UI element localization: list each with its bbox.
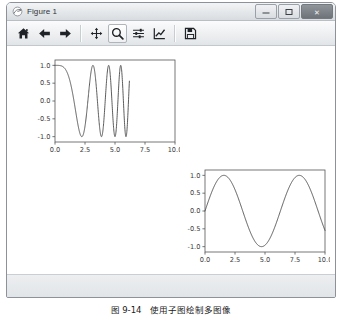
- sine-plot-svg: 0.02.55.07.510.01.00.50.0-0.5-1.0: [175, 164, 330, 275]
- minimize-icon: [263, 13, 270, 14]
- svg-text:0.0: 0.0: [40, 97, 51, 105]
- svg-text:-0.5: -0.5: [38, 115, 51, 123]
- window-controls: ✕: [255, 4, 333, 19]
- figure-canvas[interactable]: 0.02.55.07.510.01.00.50.0-0.5-1.0 0.02.5…: [7, 46, 335, 275]
- svg-text:-1.0: -1.0: [38, 133, 51, 141]
- svg-text:1.0: 1.0: [40, 62, 51, 70]
- toolbar-separator-1: [80, 25, 82, 42]
- svg-text:7.5: 7.5: [290, 256, 301, 264]
- back-arrow-icon: [38, 27, 51, 40]
- edit-axis-button[interactable]: [150, 24, 169, 43]
- maximize-button[interactable]: [278, 4, 300, 19]
- window-title: Figure 1: [27, 7, 57, 16]
- toolbar-separator-2: [174, 25, 176, 42]
- pan-move-icon: [90, 27, 103, 40]
- maximize-icon: [286, 9, 293, 15]
- matplotlib-figure-icon: [12, 6, 23, 17]
- title-bar: Figure 1 ✕: [7, 3, 335, 21]
- forward-arrow-icon: [59, 27, 72, 40]
- svg-text:-1.0: -1.0: [188, 243, 201, 251]
- back-button[interactable]: [35, 24, 54, 43]
- configure-subplots-button[interactable]: [129, 24, 148, 43]
- figure-caption: 图 9-14 使用子图绘制多图像: [0, 303, 342, 315]
- chirp-plot: 0.02.55.07.510.01.00.50.0-0.5-1.0: [25, 54, 180, 166]
- edit-axis-curve-icon: [153, 27, 166, 40]
- svg-text:5.0: 5.0: [110, 146, 121, 154]
- home-icon: [17, 27, 30, 40]
- minimize-button[interactable]: [255, 4, 277, 19]
- svg-text:0.0: 0.0: [200, 256, 211, 264]
- svg-text:2.5: 2.5: [230, 256, 241, 264]
- svg-text:0.5: 0.5: [40, 79, 51, 87]
- sine-plot: 0.02.55.07.510.01.00.50.0-0.5-1.0: [175, 164, 330, 275]
- chirp-plot-svg: 0.02.55.07.510.01.00.50.0-0.5-1.0: [25, 54, 180, 166]
- save-button[interactable]: [181, 24, 200, 43]
- zoom-magnifier-icon: [111, 27, 124, 40]
- zoom-button[interactable]: [108, 24, 127, 43]
- close-button[interactable]: ✕: [301, 4, 333, 19]
- configure-subplots-icon: [132, 27, 145, 40]
- svg-text:2.5: 2.5: [80, 146, 91, 154]
- svg-text:0.5: 0.5: [190, 189, 201, 197]
- svg-text:5.0: 5.0: [260, 256, 271, 264]
- figure-status-bar: [7, 275, 335, 298]
- svg-text:10.0: 10.0: [168, 146, 180, 154]
- navigation-toolbar: [7, 21, 335, 46]
- svg-text:0.0: 0.0: [190, 207, 201, 215]
- close-icon: ✕: [314, 8, 320, 15]
- forward-button[interactable]: [56, 24, 75, 43]
- svg-text:1.0: 1.0: [190, 172, 201, 180]
- save-floppy-icon: [184, 27, 197, 40]
- home-button[interactable]: [14, 24, 33, 43]
- svg-text:10.0: 10.0: [318, 256, 330, 264]
- pan-button[interactable]: [87, 24, 106, 43]
- svg-text:7.5: 7.5: [140, 146, 151, 154]
- figure-window: Figure 1 ✕: [6, 2, 336, 298]
- svg-text:0.0: 0.0: [50, 146, 61, 154]
- svg-text:-0.5: -0.5: [188, 225, 201, 233]
